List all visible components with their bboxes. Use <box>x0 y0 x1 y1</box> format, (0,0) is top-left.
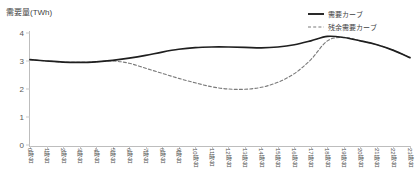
y-axis-tick-label: 2 <box>8 85 24 94</box>
x-axis-tick-label: 19時台 <box>341 148 347 167</box>
x-axis-tick-labels: 0時台1時台2時台3時台4時台5時台6時台7時台8時台9時台10時台11時台12… <box>30 148 410 180</box>
x-axis-tick-label: 1時台 <box>44 148 50 163</box>
x-axis-tick-label: 22時台 <box>390 148 396 167</box>
x-axis-tick-label: 5時台 <box>110 148 116 163</box>
x-axis-tick-label: 8時台 <box>159 148 165 163</box>
x-axis-tick-label: 13時台 <box>242 148 248 167</box>
x-axis-line <box>29 146 411 147</box>
series-line-demand <box>30 36 410 62</box>
x-axis-tick-label: 6時台 <box>126 148 132 163</box>
x-axis-tick-label: 4時台 <box>93 148 99 163</box>
x-axis-tick-label: 10時台 <box>192 148 198 167</box>
x-axis-tick-label: 2時台 <box>60 148 66 163</box>
legend-item[interactable]: 残余需要カーブ <box>308 21 412 32</box>
chart-legend: 需要カーブ残余需要カーブ <box>308 8 412 34</box>
x-axis-tick-label: 21時台 <box>374 148 380 167</box>
x-axis-tick-label: 9時台 <box>176 148 182 163</box>
y-axis-tick-label: 0 <box>8 141 24 150</box>
legend-line-swatch <box>308 23 324 31</box>
series-lines <box>30 33 410 145</box>
legend-line-swatch <box>308 10 324 18</box>
x-axis-tick-label: 12時台 <box>225 148 231 167</box>
x-axis-tick-label: 18時台 <box>324 148 330 167</box>
y-axis-tick-label: 3 <box>8 57 24 66</box>
demand-curve-chart: 需要量(TWh) 01234 0時台1時台2時台3時台4時台5時台6時台7時台8… <box>0 0 418 180</box>
x-axis-tick-label: 3時台 <box>77 148 83 163</box>
x-axis-tick-label: 0時台 <box>27 148 33 163</box>
x-axis-tick-label: 15時台 <box>275 148 281 167</box>
legend-label: 残余需要カーブ <box>328 22 377 32</box>
legend-item[interactable]: 需要カーブ <box>308 8 412 19</box>
x-axis-tick-label: 17時台 <box>308 148 314 167</box>
x-axis-tick-label: 14時台 <box>258 148 264 167</box>
legend-label: 需要カーブ <box>328 9 363 19</box>
x-axis-tick-label: 23時台 <box>407 148 413 167</box>
plot-area <box>30 33 410 145</box>
x-axis-tick-label: 20時台 <box>357 148 363 167</box>
x-axis-tick-label: 7時台 <box>143 148 149 163</box>
y-axis-tick-label: 4 <box>8 29 24 38</box>
x-axis-tick-label: 11時台 <box>209 148 215 166</box>
series-line-residual <box>30 37 410 89</box>
y-axis-tick-label: 1 <box>8 113 24 122</box>
y-axis-tick-labels: 01234 <box>6 0 24 180</box>
x-axis-tick-label: 16時台 <box>291 148 297 167</box>
